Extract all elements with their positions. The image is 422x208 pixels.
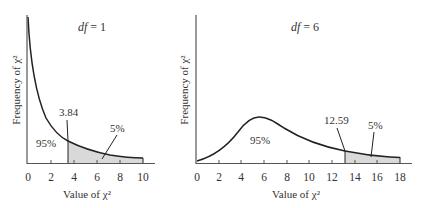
x-tick-label: 12 (326, 171, 338, 183)
acceptance-label-df1: 95% (36, 137, 56, 149)
x-tick-label: 10 (137, 171, 149, 183)
y-axis-title-df1: Frequency of χ² (10, 55, 22, 125)
x-tick-label: 18 (394, 171, 406, 183)
title-df1: df= 1 (78, 20, 106, 34)
x-tick-label: 14 (349, 171, 361, 183)
x-tick-label: 10 (303, 171, 315, 183)
rejection-label-df6: 5% (368, 119, 383, 131)
rejection-label-df1: 5% (110, 122, 125, 134)
x-tick-label: 16 (371, 171, 383, 183)
x-tick-label: 8 (117, 171, 123, 183)
critical-value-label-df1: 3.84 (59, 106, 79, 118)
x-tick-label: 0 (194, 171, 200, 183)
x-tick-label: 8 (284, 171, 290, 183)
chi-square-figure: 0 2 4 6 8 10 Value of χ² Frequency of χ²… (0, 0, 422, 208)
x-tick-label: 6 (261, 171, 267, 183)
y-axis-title-df6: Frequency of χ² (178, 55, 190, 125)
x-tick-label: 0 (25, 171, 31, 183)
chart-df6: 0 2 4 6 8 10 12 14 16 18 Value of χ² Fre… (178, 15, 412, 200)
x-tick-label: 6 (94, 171, 100, 183)
x-axis-title-df1: Value of χ² (63, 188, 112, 200)
title-df6: df= 6 (291, 20, 319, 34)
critical-leader-df1 (67, 120, 68, 141)
x-tick-label: 2 (48, 171, 54, 183)
critical-leader-df6 (337, 128, 345, 151)
rejection-leader-df6 (371, 132, 374, 157)
x-tick-label: 4 (238, 171, 244, 183)
critical-value-label-df6: 12.59 (324, 114, 349, 126)
x-tick-label: 4 (71, 171, 77, 183)
acceptance-label-df6: 95% (250, 134, 270, 146)
chart-df1: 0 2 4 6 8 10 Value of χ² Frequency of χ²… (10, 15, 155, 200)
x-axis-title-df6: Value of χ² (272, 188, 321, 200)
x-tick-label: 2 (216, 171, 222, 183)
shaded-region-df1 (68, 141, 143, 163)
